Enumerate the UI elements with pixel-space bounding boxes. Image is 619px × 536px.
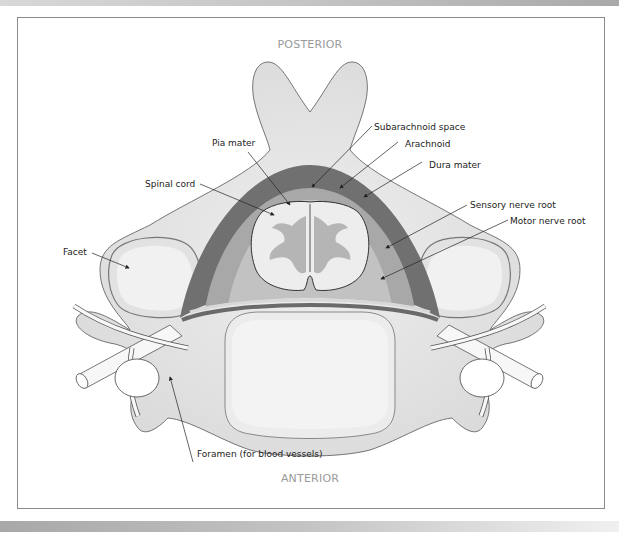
label-dura-mater: Dura mater bbox=[429, 160, 481, 170]
label-spinal-cord: Spinal cord bbox=[145, 179, 195, 189]
label-sensory-nerve-root: Sensory nerve root bbox=[470, 200, 556, 210]
vertebra-cross-section-diagram: POSTERIOR ANTERIOR Pia mater Spinal cord… bbox=[0, 0, 619, 536]
label-subarachnoid-space: Subarachnoid space bbox=[374, 122, 466, 132]
label-facet: Facet bbox=[63, 247, 87, 257]
vertebral-body bbox=[225, 312, 395, 439]
foramen-right bbox=[460, 359, 504, 397]
label-motor-nerve-root: Motor nerve root bbox=[510, 216, 586, 226]
label-arachnoid: Arachnoid bbox=[405, 139, 450, 149]
anterior-label: ANTERIOR bbox=[281, 472, 339, 485]
label-pia-mater: Pia mater bbox=[212, 138, 255, 148]
posterior-label: POSTERIOR bbox=[278, 38, 343, 51]
foramen-left bbox=[115, 359, 159, 397]
label-foramen: Foramen (for blood vessels) bbox=[197, 449, 322, 459]
